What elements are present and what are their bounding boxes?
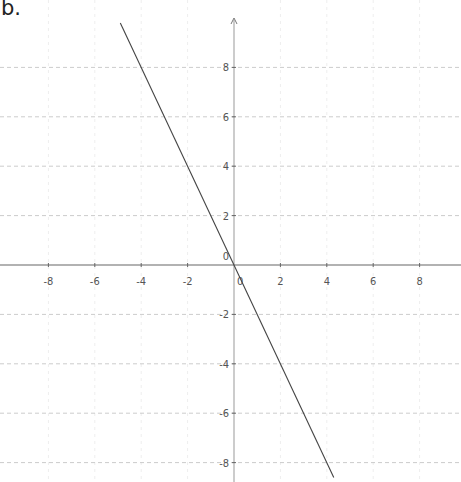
grid-lines xyxy=(0,0,461,482)
y-tick-label: 4 xyxy=(223,160,229,173)
x-tick-label: 2 xyxy=(277,275,283,288)
x-tick-label: -2 xyxy=(183,275,193,288)
y-tick-label: 8 xyxy=(223,61,229,74)
x-tick-label: -8 xyxy=(43,275,53,288)
x-tick-label: 6 xyxy=(370,275,376,288)
y-tick-label: 6 xyxy=(223,111,229,124)
x-tick-label: -4 xyxy=(136,275,146,288)
y-tick-label: -6 xyxy=(219,407,229,420)
x-tick-label: 4 xyxy=(324,275,330,288)
line-chart: -8-6-4-224688642-2-4-6-800 xyxy=(0,0,461,482)
x-tick-label: -6 xyxy=(90,275,100,288)
y-tick-label: -2 xyxy=(219,308,229,321)
y-tick-label: -4 xyxy=(219,358,229,371)
y-tick-label: -8 xyxy=(219,457,229,470)
y-tick-label: 2 xyxy=(223,210,229,223)
axes xyxy=(0,18,461,482)
x-tick-label: 8 xyxy=(416,275,422,288)
